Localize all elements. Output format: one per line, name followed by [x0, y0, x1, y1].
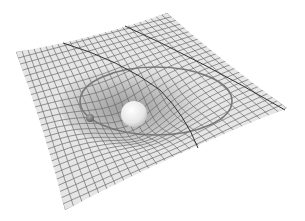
spacetime-illustration [0, 0, 305, 221]
gravity-well-diagram [0, 0, 305, 221]
large-mass-sphere [121, 101, 147, 127]
warped-sheet [16, 13, 287, 210]
small-mass-sphere [86, 114, 94, 122]
